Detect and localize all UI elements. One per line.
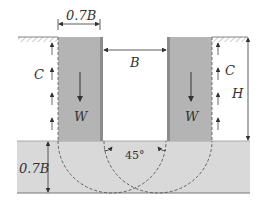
angle-label: 45° [125,149,145,162]
cohesion-label-right: C [225,63,235,78]
cohesion-label-left: C [34,67,44,82]
weight-label-left: W [74,109,89,124]
ground-hatch-left [18,37,58,42]
height-label: H [231,86,244,101]
ground-hatch-right [212,37,248,42]
right-wall [167,37,212,141]
excavation-diagram: 45° 0.7B B C C W W H 0.7B [0,0,262,208]
weight-label-right: W [185,109,200,124]
gap-width-label: B [129,55,140,70]
slab-depth-label: 0.7B [19,161,49,176]
wall-width-label: 0.7B [66,8,96,23]
